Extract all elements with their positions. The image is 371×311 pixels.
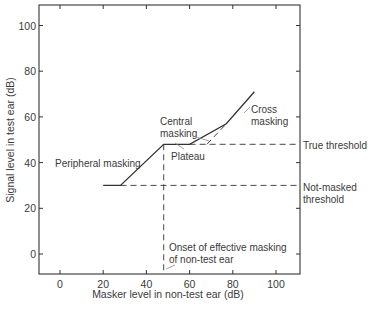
annotation-peripheral-masking: Peripheral masking <box>55 158 141 169</box>
y-tick-label: 60 <box>24 111 36 123</box>
annotation-central-masking-line1: Central <box>160 116 192 127</box>
y-tick-label: 100 <box>18 20 36 32</box>
y-tick-label: 20 <box>24 202 36 214</box>
annotation-cross-masking-line2: masking <box>251 116 288 127</box>
annotation-plateau: Plateau <box>171 151 205 162</box>
axis-ticks <box>39 5 300 274</box>
plot-border <box>39 5 300 274</box>
plot-frame <box>39 5 300 274</box>
y-tick-label: 0 <box>30 248 36 260</box>
y-tick-label: 40 <box>24 157 36 169</box>
y-tick-label: 80 <box>24 65 36 77</box>
cross-masking-extrapolation-line <box>207 124 226 145</box>
y-axis-title: Signal level in test ear (dB) <box>4 77 16 202</box>
x-axis-title: Masker level in non-test ear (dB) <box>92 288 244 300</box>
annotation-onset-line1: Onset of effective masking <box>169 242 287 253</box>
x-tick-label: 100 <box>267 278 285 290</box>
masking-chart: 020406080100020406080100 Masker level in… <box>0 0 371 311</box>
x-tick-label: 0 <box>57 278 63 290</box>
annotation-central-masking-line2: masking <box>160 128 197 139</box>
annotation-true-threshold: True threshold <box>303 140 367 151</box>
annotation-onset-line2: of non-test ear <box>169 254 234 265</box>
annotation-not-masked-line1: Not-masked <box>303 182 357 193</box>
annotation-not-masked-line2: threshold <box>303 194 344 205</box>
annotation-cross-masking-line1: Cross <box>251 104 277 115</box>
